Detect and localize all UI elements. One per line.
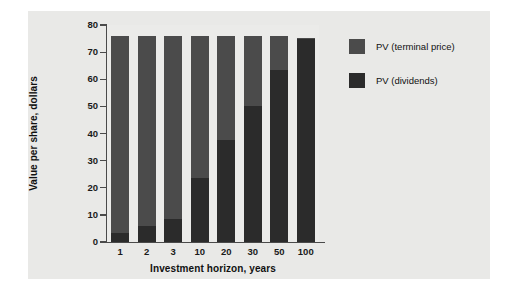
bar-segment-dividends xyxy=(191,178,209,242)
bar-segment-dividends xyxy=(138,226,156,242)
y-axis-title: Value per share, dollars xyxy=(28,54,39,214)
bar-segment-dividends xyxy=(164,219,182,242)
legend-item: PV (dividends) xyxy=(349,73,489,88)
x-axis-line xyxy=(106,242,325,243)
y-axis-tick-label: 40 xyxy=(74,129,98,139)
bar-segment-terminal-price xyxy=(138,36,156,226)
bar-segment-terminal-price xyxy=(270,36,288,70)
bar-group xyxy=(244,25,262,242)
bar-group xyxy=(164,25,182,242)
bar-group xyxy=(138,25,156,242)
chart-figure: 01020304050607080 12310203050100 Investm… xyxy=(0,0,517,293)
bar-segment-terminal-price xyxy=(111,36,129,233)
bar-segment-dividends xyxy=(217,140,235,242)
bar-group xyxy=(111,25,129,242)
y-axis-tick xyxy=(100,24,106,25)
bar-segment-terminal-price xyxy=(244,36,262,107)
y-axis-tick-label: 20 xyxy=(74,183,98,193)
y-axis-tick xyxy=(100,52,106,53)
y-axis-tick xyxy=(100,79,106,80)
y-axis-tick-label: 60 xyxy=(74,74,98,84)
chart-legend: PV (terminal price)PV (dividends) xyxy=(349,39,489,107)
y-axis-tick-label: 10 xyxy=(74,210,98,220)
y-axis-tick xyxy=(100,187,106,188)
legend-label: PV (dividends) xyxy=(376,76,438,86)
bar-group xyxy=(191,25,209,242)
y-axis-tick xyxy=(100,133,106,134)
legend-swatch xyxy=(349,39,365,54)
y-axis-tick-label: 30 xyxy=(74,156,98,166)
y-axis-tick xyxy=(100,106,106,107)
bar-group xyxy=(217,25,235,242)
y-axis-tick xyxy=(100,160,106,161)
legend-label: PV (terminal price) xyxy=(376,42,455,52)
y-axis-tick xyxy=(100,214,106,215)
bar-segment-dividends xyxy=(111,233,129,242)
bar-segment-terminal-price xyxy=(164,36,182,219)
y-axis-tick-label: 80 xyxy=(74,20,98,30)
legend-item: PV (terminal price) xyxy=(349,39,489,54)
bar-segment-dividends xyxy=(270,70,288,242)
x-axis-tick-label: 100 xyxy=(286,247,326,257)
x-axis-title: Investment horizon, years xyxy=(107,263,319,274)
bar-group xyxy=(297,25,315,242)
y-axis-line xyxy=(106,24,107,243)
y-axis-tick-label: 50 xyxy=(74,101,98,111)
bar-segment-dividends xyxy=(244,106,262,242)
bar-segment-terminal-price xyxy=(191,36,209,178)
bar-group xyxy=(270,25,288,242)
y-axis-tick-label: 0 xyxy=(74,237,98,247)
bar-segment-terminal-price xyxy=(217,36,235,140)
bar-segment-dividends xyxy=(297,39,315,242)
y-axis-tick xyxy=(100,241,106,242)
legend-swatch xyxy=(349,73,365,88)
y-axis-tick-label: 70 xyxy=(74,47,98,57)
y-axis-tick-labels: 01020304050607080 xyxy=(70,0,98,293)
